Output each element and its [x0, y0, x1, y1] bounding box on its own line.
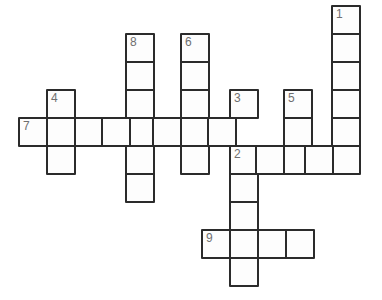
clue-number-2: 2 [234, 148, 241, 161]
cell-col6-r3[interactable] [180, 89, 210, 119]
cell-row7-c7[interactable] [207, 117, 237, 147]
crossword-grid: 186432579 [0, 0, 382, 300]
cell-3-start[interactable]: 3 [229, 89, 259, 119]
cell-col1-r2[interactable] [331, 61, 361, 91]
cell-col3-r8[interactable] [229, 229, 259, 259]
cell-row7-c3[interactable] [101, 117, 131, 147]
cell-col5-r4[interactable] [283, 117, 313, 147]
cell-col6-r5[interactable] [180, 145, 210, 175]
clue-number-8: 8 [130, 36, 137, 49]
cell-4-start[interactable]: 4 [46, 89, 76, 119]
cell-col3-r7[interactable] [229, 201, 259, 231]
clue-number-3: 3 [234, 92, 241, 105]
clue-number-6: 6 [185, 36, 192, 49]
clue-number-4: 4 [51, 92, 58, 105]
cell-col4-r4[interactable] [46, 117, 76, 147]
cell-col6-r4[interactable] [180, 117, 210, 147]
cell-row7-c2[interactable] [74, 117, 104, 147]
cell-6-start[interactable]: 6 [180, 33, 210, 63]
clue-number-1: 1 [336, 8, 343, 21]
clue-number-9: 9 [206, 232, 213, 245]
clue-number-7: 7 [23, 120, 30, 133]
cell-col3-r9[interactable] [229, 257, 259, 287]
cell-col3-r6[interactable] [229, 173, 259, 203]
cell-9-start[interactable]: 9 [201, 229, 231, 259]
cell-1-start[interactable]: 1 [331, 5, 361, 35]
cell-col1-r3[interactable] [331, 89, 361, 119]
cell-col8-r6[interactable] [125, 173, 155, 203]
cell-row2-c8[interactable] [255, 145, 285, 175]
cell-col1-r4[interactable] [331, 117, 361, 147]
cell-7-start[interactable]: 7 [18, 117, 48, 147]
cell-col4-r5[interactable] [46, 145, 76, 175]
cell-8-start[interactable]: 8 [125, 33, 155, 63]
cell-row7-c5[interactable] [152, 117, 182, 147]
cell-col8-r5[interactable] [125, 145, 155, 175]
cell-row9-c8[interactable] [257, 229, 287, 259]
cell-col8-r3[interactable] [125, 89, 155, 119]
cell-col8-r2[interactable] [125, 61, 155, 91]
cell-5-start[interactable]: 5 [283, 89, 313, 119]
cell-row9-c9[interactable] [285, 229, 315, 259]
cell-row2-c10[interactable] [304, 145, 334, 175]
cell-col1-r5[interactable] [331, 145, 361, 175]
clue-number-5: 5 [288, 92, 295, 105]
cell-col1-r1[interactable] [331, 33, 361, 63]
cell-col6-r2[interactable] [180, 61, 210, 91]
